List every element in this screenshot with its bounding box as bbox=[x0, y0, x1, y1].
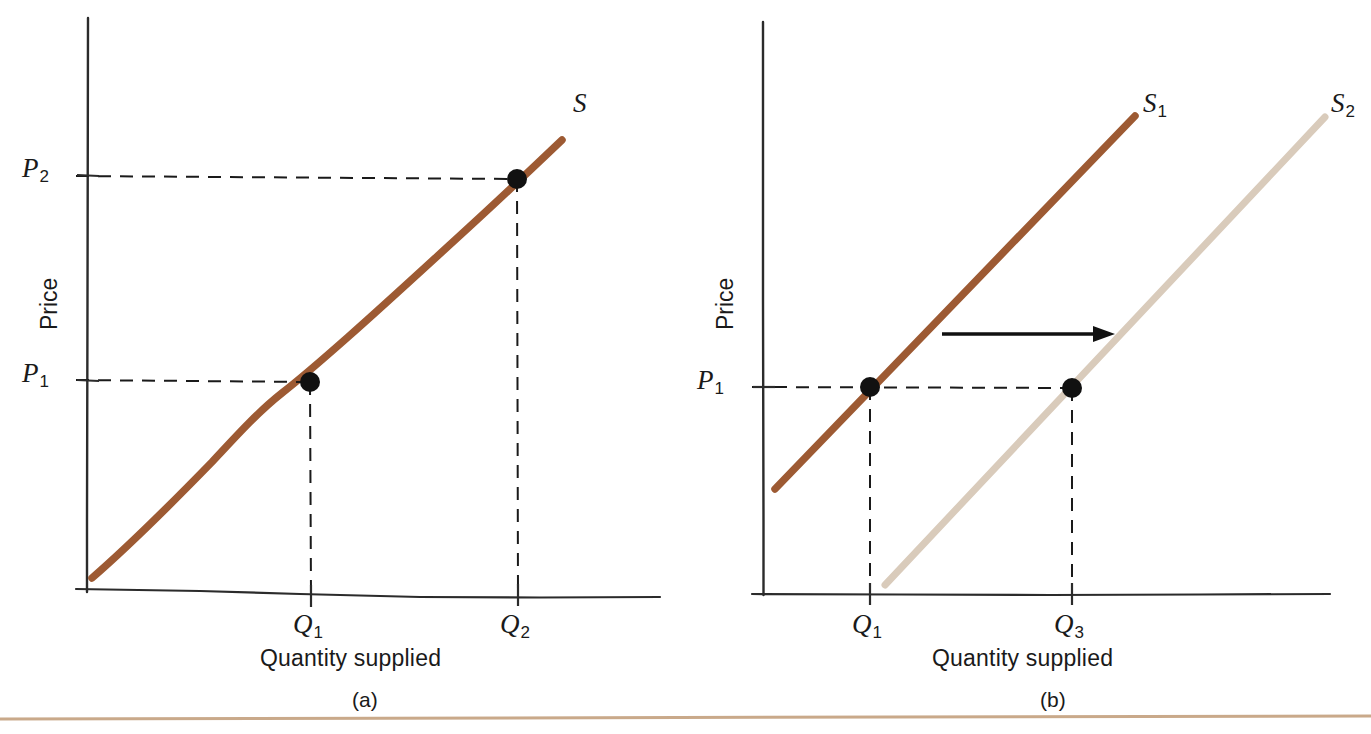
panel-b-x-axis bbox=[752, 594, 1330, 595]
panel-a-q2-dashed-line bbox=[517, 179, 518, 596]
panel-a-x-axis-label: Quantity supplied bbox=[260, 645, 441, 672]
panel-a-y-axis bbox=[87, 18, 88, 592]
panel-b-y-axis-label: Price bbox=[712, 278, 739, 330]
supply-curve-figure: P2 P1 Price S Q1 Q2 Quantity supplied (a… bbox=[0, 0, 1371, 734]
panel-a-curve-label-s: S bbox=[573, 88, 587, 119]
panel-b-graph bbox=[752, 22, 1330, 605]
panel-a-quantity-tick-label-q1: Q1 bbox=[293, 609, 322, 640]
bottom-rule bbox=[0, 716, 1371, 719]
panel-a-tick-p2 bbox=[77, 175, 99, 176]
panel-a-p1-dashed-line bbox=[76, 380, 310, 382]
panel-a-tick-p1 bbox=[77, 380, 99, 381]
panel-a-supply-curve bbox=[92, 140, 562, 578]
panel-b-caption: (b) bbox=[1040, 688, 1066, 712]
panel-a-p2-dashed-line bbox=[76, 176, 517, 179]
panel-b-quantity-tick-label-q3: Q3 bbox=[1054, 609, 1083, 640]
rightward-shift-arrow bbox=[942, 326, 1115, 342]
panel-b-curve-label-s1: S1 bbox=[1143, 88, 1166, 119]
panel-b-x-axis-label: Quantity supplied bbox=[932, 645, 1113, 672]
panel-a-point-p1q1 bbox=[300, 372, 320, 392]
panel-a-q1-dashed-line bbox=[310, 382, 311, 596]
panel-b-price-tick-label-p1: P1 bbox=[697, 365, 723, 396]
panel-a-x-axis bbox=[76, 589, 660, 598]
panel-b-y-axis bbox=[763, 22, 764, 595]
panel-b-point-p1q1 bbox=[860, 377, 880, 397]
panel-a-y-axis-label: Price bbox=[36, 278, 63, 330]
panel-b-supply-curve-s2 bbox=[885, 117, 1325, 585]
panel-b-quantity-tick-label-q1: Q1 bbox=[852, 609, 881, 640]
panel-a-point-p2q2 bbox=[507, 169, 527, 189]
panel-b-supply-curve-s1 bbox=[775, 116, 1135, 489]
panel-a-price-tick-label-p1: P1 bbox=[22, 358, 48, 389]
panel-a-caption: (a) bbox=[352, 688, 378, 712]
panel-b-curve-label-s2: S2 bbox=[1331, 88, 1354, 119]
panel-b-point-p1q3 bbox=[1062, 378, 1082, 398]
panel-b-p1-dashed-line bbox=[752, 387, 1072, 388]
panel-a-price-tick-label-p2: P2 bbox=[22, 153, 48, 184]
panel-a-quantity-tick-label-q2: Q2 bbox=[500, 609, 529, 640]
